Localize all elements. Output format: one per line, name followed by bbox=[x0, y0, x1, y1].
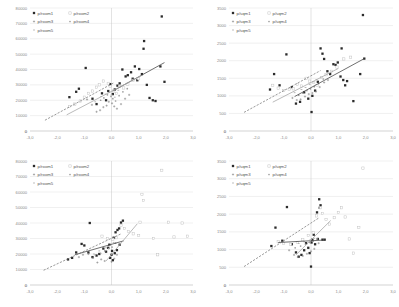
point-p-sqm1 bbox=[362, 14, 364, 16]
point-p-room1 bbox=[75, 251, 77, 253]
point-p-sqm1 bbox=[326, 70, 328, 72]
legend-label-p-sqm3: p/sqm3 bbox=[237, 172, 252, 177]
legend-label-p-room2: p/room2 bbox=[74, 164, 90, 169]
point-p-sqm2 bbox=[308, 80, 310, 82]
y-tick-label: 30000 bbox=[16, 82, 28, 87]
scatter-plot-bottom-left: 0100002000030000400005000060000700008000… bbox=[0, 153, 199, 307]
legend-label-p-sqm3: p/sqm3 bbox=[237, 19, 252, 24]
point-p-room2 bbox=[181, 222, 183, 224]
x-tick-label: 1,0 bbox=[335, 289, 341, 294]
point-p-room4 bbox=[108, 248, 110, 250]
legend-label-p-sqm4: p/sqm4 bbox=[273, 19, 288, 24]
legend: p/room1p/room2p/room3p/room4p/room5 bbox=[33, 11, 90, 33]
legend-marker-p-sqm2 bbox=[268, 165, 270, 167]
point-p-sqm2 bbox=[340, 207, 342, 209]
y-tick-label: 50000 bbox=[16, 52, 28, 57]
point-p-room3 bbox=[113, 105, 115, 107]
scatter-plot-top-right: 0500100015002000250030003500-3,0-2,0-1,0… bbox=[199, 0, 399, 153]
point-p-room5 bbox=[105, 247, 107, 248]
legend-label-p-room1: p/room1 bbox=[38, 11, 54, 16]
y-tick-label: 80000 bbox=[16, 6, 28, 11]
y-tick-label: 70000 bbox=[16, 21, 28, 26]
x-tick-label: 0,0 bbox=[308, 135, 314, 140]
point-p-room5 bbox=[117, 90, 119, 91]
x-tick-label: 0,0 bbox=[109, 289, 115, 294]
point-p-room2 bbox=[107, 82, 109, 84]
point-p-room2 bbox=[142, 199, 144, 201]
point-p-room2 bbox=[98, 84, 100, 86]
point-p-sqm1 bbox=[311, 95, 313, 97]
point-p-room3 bbox=[99, 109, 101, 111]
legend-marker-p-sqm5 bbox=[232, 30, 234, 31]
data-points bbox=[67, 169, 189, 263]
x-tick-label: -3,0 bbox=[26, 289, 34, 294]
point-p-sqm3 bbox=[308, 93, 310, 95]
point-p-sqm2 bbox=[343, 58, 345, 60]
point-p-room1 bbox=[91, 98, 93, 100]
y-tick-label: 40000 bbox=[16, 221, 28, 226]
trendline-dashed bbox=[44, 234, 121, 270]
x-tick-label: 2,0 bbox=[163, 135, 169, 140]
point-p-sqm3 bbox=[323, 81, 325, 83]
point-p-room5 bbox=[111, 94, 113, 95]
legend: p/sqm1p/sqm2p/sqm3p/sqm4p/sqm5 bbox=[232, 164, 287, 186]
point-p-sqm1 bbox=[321, 53, 323, 55]
x-tick-label: -1,0 bbox=[280, 135, 288, 140]
point-p-sqm5 bbox=[309, 84, 311, 85]
point-p-sqm1 bbox=[316, 211, 318, 213]
x-axis-ticks: -3,0-2,0-1,00,01,02,03,0 bbox=[225, 135, 396, 140]
point-p-sqm2 bbox=[362, 167, 364, 169]
point-p-sqm2 bbox=[358, 226, 360, 228]
legend-label-p-sqm5: p/sqm5 bbox=[237, 28, 252, 33]
point-p-sqm2 bbox=[344, 216, 346, 218]
y-tick-label: 50000 bbox=[16, 205, 28, 210]
legend-label-p-room1: p/room1 bbox=[38, 164, 54, 169]
point-p-room3 bbox=[116, 108, 118, 110]
y-tick-label: 1500 bbox=[217, 229, 227, 234]
point-p-sqm2 bbox=[272, 84, 274, 86]
chart-grid: 0100002000030000400005000060000700008000… bbox=[0, 0, 399, 307]
point-p-sqm4 bbox=[294, 247, 296, 249]
origin-label: 0 bbox=[224, 129, 227, 134]
point-p-room3 bbox=[96, 261, 98, 263]
x-axis-ticks: -3,0-2,0-1,00,01,02,03,0 bbox=[225, 289, 396, 294]
panel-top-right: 0500100015002000250030003500-3,0-2,0-1,0… bbox=[199, 0, 399, 153]
point-p-room1 bbox=[107, 90, 109, 92]
legend-marker-p-room2 bbox=[69, 165, 71, 167]
point-p-room2 bbox=[102, 80, 104, 82]
point-p-sqm2 bbox=[288, 88, 290, 90]
y-tick-label: 500 bbox=[219, 111, 227, 116]
series-p-room1 bbox=[68, 15, 165, 105]
x-axis-ticks: -3,0-2,0-1,00,01,02,03,0 bbox=[26, 289, 196, 294]
legend-label-p-room4: p/room4 bbox=[74, 172, 90, 177]
y-tick-label: 20000 bbox=[16, 252, 28, 257]
legend-marker-p-sqm5 bbox=[232, 183, 234, 184]
origin-label: 0 bbox=[224, 283, 227, 288]
point-p-room1 bbox=[89, 222, 91, 224]
point-p-room2 bbox=[101, 235, 103, 237]
point-p-room4 bbox=[107, 94, 109, 96]
legend-label-p-room5: p/room5 bbox=[38, 181, 54, 186]
x-tick-label: -2,0 bbox=[54, 289, 62, 294]
legend-marker-p-room4 bbox=[69, 174, 71, 176]
point-p-room1 bbox=[105, 99, 107, 101]
legend-marker-p-room5 bbox=[33, 183, 35, 184]
legend-marker-p-sqm2 bbox=[268, 12, 270, 14]
y-tick-label: 2500 bbox=[217, 41, 227, 46]
point-p-sqm2 bbox=[352, 252, 354, 254]
x-tick-label: 3,0 bbox=[390, 135, 396, 140]
point-p-sqm4 bbox=[300, 245, 302, 247]
point-p-room1 bbox=[138, 68, 140, 70]
x-tick-label: -2,0 bbox=[253, 135, 261, 140]
point-p-room2 bbox=[132, 233, 134, 235]
point-p-room1 bbox=[120, 221, 122, 223]
point-p-room1 bbox=[75, 91, 77, 93]
point-p-sqm1 bbox=[295, 102, 297, 104]
y-tick-label: 10000 bbox=[16, 113, 28, 118]
point-p-room2 bbox=[123, 87, 125, 89]
point-p-sqm1 bbox=[319, 47, 321, 49]
point-p-room1 bbox=[124, 75, 126, 77]
y-tick-label: 2000 bbox=[217, 212, 227, 217]
x-axis-ticks: -3,0-2,0-1,00,01,02,03,0 bbox=[26, 135, 196, 140]
point-p-sqm3 bbox=[311, 92, 313, 94]
